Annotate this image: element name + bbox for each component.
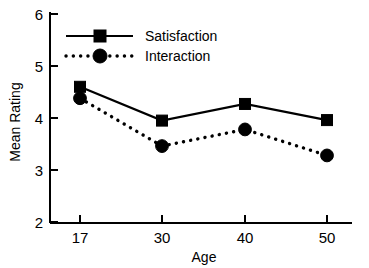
series-satisfaction-markers [75,81,333,126]
y-axis-title: Mean Rating [7,82,23,161]
data-point-marker-square [157,115,168,126]
data-point-marker-square [322,115,333,126]
series-interaction-line [80,98,327,155]
chart-figure: 6 5 4 3 2 17 30 40 50 Age Mean Rating [0,0,369,268]
legend-label-interaction: Interaction [145,48,210,64]
legend-swatch-circle-icon [93,49,107,63]
legend-entry-interaction: Interaction [66,48,210,64]
legend-entry-satisfaction: Satisfaction [66,28,217,44]
y-tick-label-5: 5 [35,58,43,75]
x-tick-label-30: 30 [154,229,171,246]
y-tick-label-4: 4 [35,110,43,127]
series-interaction [74,92,334,162]
y-tick-label-2: 2 [35,214,43,231]
line-chart-canvas: 6 5 4 3 2 17 30 40 50 Age Mean Rating [0,0,369,268]
data-point-marker-square [240,98,251,109]
y-tick-label-3: 3 [35,162,43,179]
series-satisfaction-line [80,87,327,121]
data-point-marker-circle [321,149,334,162]
data-point-marker-circle [156,140,169,153]
legend-swatch-square-icon [94,30,106,42]
series-interaction-markers [74,92,334,162]
data-point-marker-circle [239,123,252,136]
data-point-marker-square [75,81,86,92]
x-tick-label-17: 17 [72,229,89,246]
x-tick-labels: 17 30 40 50 [72,229,336,246]
x-tick-label-40: 40 [237,229,254,246]
chart-legend: Satisfaction Interaction [66,28,217,64]
data-point-marker-circle [74,92,87,105]
y-tick-labels: 6 5 4 3 2 [35,6,43,231]
series-satisfaction [75,81,333,126]
x-axis-title: Age [192,249,217,265]
legend-label-satisfaction: Satisfaction [145,28,217,44]
x-tick-label-50: 50 [319,229,336,246]
y-tick-label-6: 6 [35,6,43,23]
